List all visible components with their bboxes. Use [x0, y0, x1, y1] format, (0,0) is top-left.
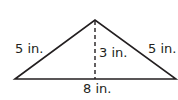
base-label: 8 in.: [83, 82, 111, 95]
right-side-label: 5 in.: [148, 42, 176, 55]
height-label: 3 in.: [99, 46, 127, 59]
left-side-label: 5 in.: [15, 42, 43, 55]
